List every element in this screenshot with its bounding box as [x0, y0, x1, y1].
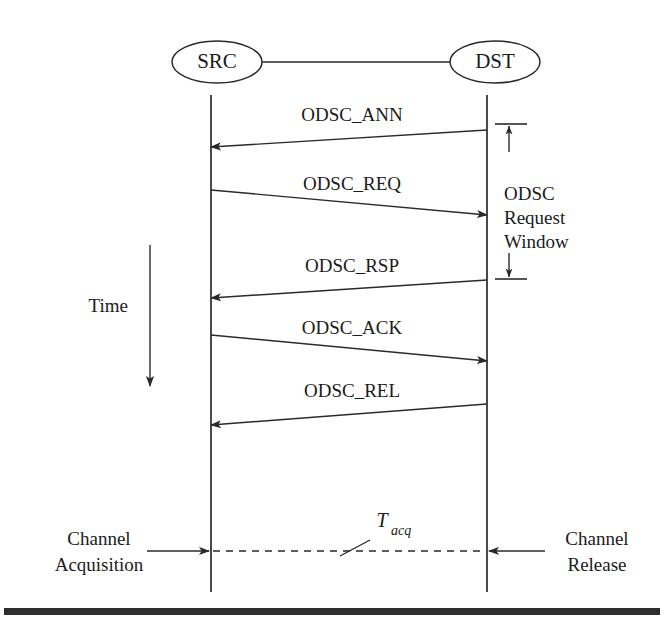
- message-odsc-rel: ODSC_REL: [211, 380, 487, 425]
- src-label: SRC: [197, 49, 237, 73]
- message-odsc-ann: ODSC_ANN: [211, 104, 487, 147]
- odsc-rel-label: ODSC_REL: [304, 380, 400, 401]
- node-dst: DST: [450, 41, 540, 83]
- odsc-rsp-arrow: [211, 280, 487, 298]
- time-label: Time: [89, 295, 128, 316]
- channel-release-annotation: Channel Release: [489, 528, 629, 575]
- node-src: SRC: [172, 41, 262, 83]
- tacq-subscript-label: acq: [391, 523, 411, 538]
- odsc-request-window-annotation: ODSC Request Window: [495, 124, 569, 279]
- request-window-label-line-1: ODSC: [504, 183, 555, 204]
- message-odsc-ack: ODSC_ACK: [211, 317, 487, 361]
- channel-acquisition-annotation: Channel Acquisition: [55, 528, 209, 575]
- channel-acquisition-label-line-1: Channel: [67, 528, 130, 549]
- odsc-ack-arrow: [211, 335, 487, 361]
- dst-label: DST: [475, 49, 515, 73]
- odsc-ann-arrow: [211, 130, 487, 147]
- bottom-rule: [4, 608, 660, 615]
- message-odsc-rsp: ODSC_RSP: [211, 255, 487, 298]
- request-window-label-line-2: Request: [504, 207, 566, 228]
- tacq-annotation: T acq: [213, 509, 485, 556]
- odsc-rsp-label: ODSC_RSP: [305, 255, 399, 276]
- time-arrow-annotation: Time: [89, 245, 150, 386]
- channel-release-label-line-2: Release: [567, 554, 626, 575]
- tacq-base-label: T: [376, 509, 389, 531]
- sequence-diagram-root: SRC DST ODSC_ANN ODSC_REQ ODSC_RSP ODSC_…: [0, 0, 664, 627]
- odsc-ann-label: ODSC_ANN: [301, 104, 403, 125]
- channel-acquisition-label-line-2: Acquisition: [55, 554, 144, 575]
- channel-release-label-line-1: Channel: [565, 528, 628, 549]
- tacq-leader-line: [340, 540, 370, 556]
- request-window-label-line-3: Window: [504, 231, 569, 252]
- odsc-req-label: ODSC_REQ: [303, 173, 401, 194]
- odsc-rel-arrow: [211, 404, 487, 425]
- message-odsc-req: ODSC_REQ: [211, 173, 487, 215]
- odsc-ack-label: ODSC_ACK: [302, 317, 403, 338]
- sequence-diagram-canvas: SRC DST ODSC_ANN ODSC_REQ ODSC_RSP ODSC_…: [0, 0, 664, 627]
